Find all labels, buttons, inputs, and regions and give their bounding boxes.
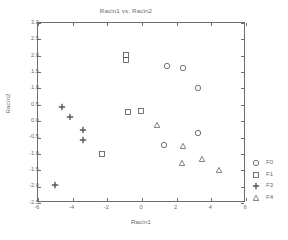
y-axis-tick-label: -2.0: [29, 182, 39, 188]
data-point-f4: [178, 160, 186, 168]
data-point-f3: [66, 113, 74, 121]
data-point-f0: [160, 141, 168, 149]
data-point-f4: [179, 143, 187, 151]
y-axis-tick-label: 2.0: [31, 52, 39, 58]
x-axis-tick: [246, 198, 247, 201]
data-point-f4: [198, 155, 206, 163]
y-axis-tick: [241, 170, 244, 171]
x-axis-tick: [177, 23, 178, 26]
x-axis-tick: [211, 198, 212, 201]
legend-label: F0: [266, 159, 273, 165]
x-axis-tick: [107, 198, 108, 201]
y-axis-tick-label: 1.5: [31, 68, 39, 74]
x-axis-tick-label: 2: [166, 204, 186, 210]
x-axis-tick: [142, 198, 143, 201]
x-axis-tick: [246, 23, 247, 26]
data-point-f3: [58, 103, 66, 111]
triangle-icon: [252, 194, 260, 202]
x-axis-tick: [107, 23, 108, 26]
y-axis-tick-label: -1.0: [29, 150, 39, 156]
x-axis-tick: [73, 198, 74, 201]
data-point-f3: [52, 181, 60, 189]
y-axis-tick-label: 0.0: [31, 117, 39, 123]
data-point-f3: [79, 136, 87, 144]
legend-item-f3[interactable]: F3: [252, 181, 288, 193]
y-axis-tick-label: -0.5: [29, 133, 39, 139]
legend-label: F3: [266, 182, 273, 188]
y-axis-tick: [241, 72, 244, 73]
y-axis-tick: [241, 56, 244, 57]
y-axis-tick-label: 3.0: [31, 19, 39, 25]
plus-icon: [252, 182, 260, 190]
scatter-plot-figure: Racin1 vs. Racin2 -2.5-2.0-1.5-1.0-0.50.…: [0, 0, 288, 240]
data-point-f0: [179, 64, 187, 72]
data-point-f3: [79, 126, 87, 134]
y-axis-tick: [241, 187, 244, 188]
y-axis-tick: [241, 39, 244, 40]
legend-item-f1[interactable]: F1: [252, 170, 288, 182]
y-axis-title: Racin2: [4, 76, 11, 132]
x-axis-tick-label: 4: [200, 204, 220, 210]
data-point-f4: [153, 122, 161, 130]
y-axis-tick: [241, 23, 244, 24]
chart-legend: F0F1F3F4: [252, 158, 288, 204]
y-axis-tick-label: 2.5: [31, 35, 39, 41]
x-axis-tick-label: -2: [96, 204, 116, 210]
data-point-f1: [125, 108, 133, 116]
y-axis-tick: [241, 88, 244, 89]
x-axis-tick: [142, 23, 143, 26]
y-axis-tick-label: 0.5: [31, 101, 39, 107]
x-axis-tick: [211, 23, 212, 26]
legend-label: F4: [266, 194, 273, 200]
legend-item-f4[interactable]: F4: [252, 193, 288, 205]
data-point-f1: [98, 150, 106, 158]
data-point-f0: [195, 129, 203, 137]
chart-title: Racin1 vs. Racin2: [0, 7, 252, 14]
x-axis-tick-label: 0: [131, 204, 151, 210]
y-axis-tick-label: 1.0: [31, 84, 39, 90]
x-axis-tick: [177, 198, 178, 201]
data-point-f0: [195, 84, 203, 92]
x-axis-title: Racin1: [37, 218, 245, 225]
y-axis-tick: [241, 138, 244, 139]
x-axis-tick: [73, 23, 74, 26]
legend-label: F1: [266, 171, 273, 177]
data-point-f1: [137, 108, 145, 116]
y-axis-tick-label: -1.5: [29, 166, 39, 172]
data-point-f4: [215, 166, 223, 174]
data-point-f1: [123, 56, 131, 64]
x-axis-tick-label: -4: [62, 204, 82, 210]
square-icon: [252, 171, 260, 179]
legend-item-f0[interactable]: F0: [252, 158, 288, 170]
y-axis-tick: [241, 105, 244, 106]
y-axis-tick: [241, 121, 244, 122]
y-axis-tick: [241, 154, 244, 155]
circle-icon: [252, 159, 260, 167]
data-point-f0: [163, 62, 171, 70]
x-axis-tick-label: 6: [235, 204, 255, 210]
plot-area: [37, 22, 245, 202]
x-axis-tick-label: -6: [27, 204, 47, 210]
